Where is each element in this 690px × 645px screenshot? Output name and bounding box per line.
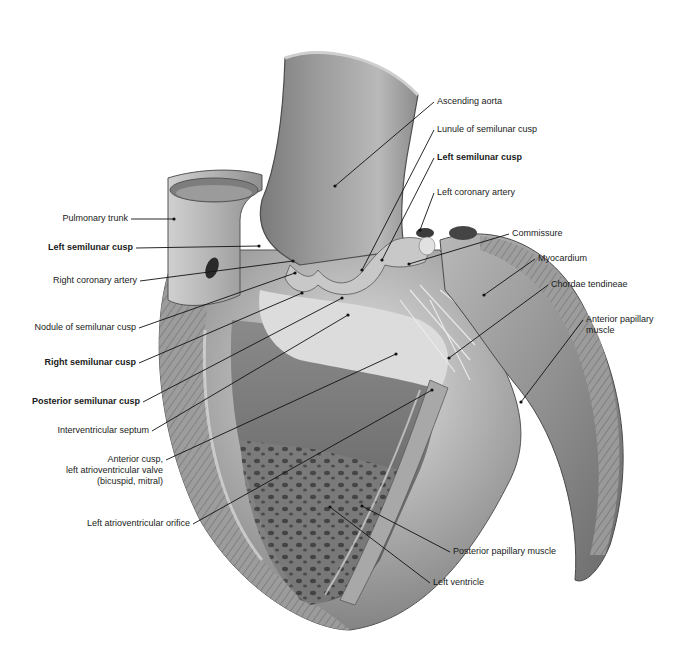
label-chordae-tendineae: Chordae tendineae [551, 279, 628, 290]
label-right-semilunar-cusp: Right semilunar cusp [44, 357, 136, 368]
label-nodule-of-semilunar-cusp: Nodule of semilunar cusp [34, 322, 136, 333]
label-left-ventricle: Left ventricle [433, 577, 484, 588]
label-lunule-of-semilunar-cusp: Lunule of semilunar cusp [437, 124, 537, 135]
label-anterior-cusp-mitral-valve: Anterior cusp, left atrioventricular val… [66, 454, 163, 487]
label-commissure: Commissure [512, 228, 563, 239]
label-left-atrioventricular-orifice: Left atrioventricular orifice [87, 518, 190, 529]
label-posterior-semilunar-cusp: Posterior semilunar cusp [32, 396, 140, 407]
label-interventricular-septum: Interventricular septum [57, 425, 149, 436]
label-posterior-papillary-muscle: Posterior papillary muscle [453, 546, 556, 557]
label-left-semilunar-cusp-pulmonary: Left semilunar cusp [48, 242, 133, 253]
label-pulmonary-trunk: Pulmonary trunk [62, 213, 128, 224]
label-left-coronary-artery: Left coronary artery [437, 187, 515, 198]
heart-anatomy-diagram: Pulmonary trunk Left semilunar cusp Righ… [0, 0, 690, 645]
ascending-aorta-shape [260, 53, 418, 265]
flap-vessel-opening [449, 226, 477, 240]
label-ascending-aorta: Ascending aorta [437, 96, 502, 107]
label-left-semilunar-cusp-aortic: Left semilunar cusp [437, 152, 522, 163]
label-anterior-papillary-muscle: Anterior papillary muscle [586, 314, 654, 336]
label-myocardium: Myocardium [538, 253, 587, 264]
label-right-coronary-artery: Right coronary artery [53, 275, 137, 286]
